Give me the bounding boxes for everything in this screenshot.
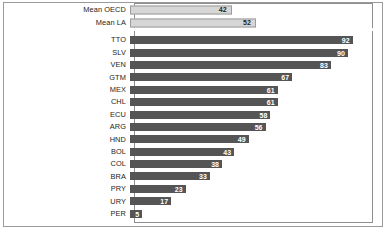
category-label: GTM <box>4 74 130 81</box>
bar-value-label: 52 <box>243 19 251 26</box>
category-label: COL <box>4 160 130 167</box>
reference-row-list: Mean OECD42Mean LA52 <box>4 3 376 30</box>
reference-label: Mean OECD <box>4 6 130 13</box>
bar-track: 33 <box>130 170 376 182</box>
chart-row: BRA33 <box>4 170 376 182</box>
bar-value-label: 61 <box>267 99 275 106</box>
category-label: PER <box>4 210 130 217</box>
category-label: BOL <box>4 148 130 155</box>
bar-value-label: 67 <box>281 74 289 81</box>
category-label: URY <box>4 198 130 205</box>
reference-means-panel: Mean OECD42Mean LA52 <box>4 3 376 30</box>
bar-value-label: 17 <box>160 198 168 205</box>
category-label: ECU <box>4 111 130 118</box>
reference-row: Mean LA52 <box>4 16 376 29</box>
bar-value-label: 33 <box>199 173 207 180</box>
value-bar: 49 <box>130 135 249 143</box>
bar-value-label: 23 <box>175 185 183 192</box>
category-label: PRY <box>4 185 130 192</box>
reference-label: Mean LA <box>4 19 130 26</box>
category-label: HND <box>4 136 130 143</box>
chart-row: CHL61 <box>4 96 376 108</box>
category-label: CHL <box>4 98 130 105</box>
bar-value-label: 90 <box>337 49 345 56</box>
reference-bar: 42 <box>130 5 232 14</box>
bar-track: 67 <box>130 71 376 83</box>
bar-value-label: 38 <box>211 161 219 168</box>
chart-row: ARG56 <box>4 121 376 133</box>
bar-value-label: 92 <box>342 37 350 44</box>
bar-track: 61 <box>130 84 376 96</box>
chart-row: PRY23 <box>4 183 376 195</box>
chart-row: SLV90 <box>4 46 376 58</box>
value-bar: 90 <box>130 49 348 57</box>
country-row-list: TTO92SLV90VEN83GTM67MEX61CHL61ECU58ARG56… <box>4 31 376 225</box>
value-bar: 92 <box>130 36 353 44</box>
reference-bar: 52 <box>130 18 256 27</box>
category-label: TTO <box>4 36 130 43</box>
bar-value-label: 43 <box>223 148 231 155</box>
chart-row: MEX61 <box>4 84 376 96</box>
chart-row: GTM67 <box>4 71 376 83</box>
bar-track: 23 <box>130 183 376 195</box>
chart-row: COL38 <box>4 158 376 170</box>
bar-track: 83 <box>130 59 376 71</box>
bar-value-label: 61 <box>267 86 275 93</box>
bar-track: 56 <box>130 121 376 133</box>
value-bar: 56 <box>130 123 266 131</box>
category-label: VEN <box>4 61 130 68</box>
chart-row: PER5 <box>4 207 376 219</box>
chart-row: TTO92 <box>4 34 376 46</box>
bar-track: 52 <box>130 16 376 29</box>
value-bar: 17 <box>130 197 171 205</box>
bar-track: 58 <box>130 108 376 120</box>
chart-figure: Mean OECD42Mean LA52 TTO92SLV90VEN83GTM6… <box>0 0 387 230</box>
category-label: ARG <box>4 123 130 130</box>
chart-row: HND49 <box>4 133 376 145</box>
value-bar: 61 <box>130 98 278 106</box>
value-bar: 33 <box>130 172 210 180</box>
bar-track: 49 <box>130 133 376 145</box>
country-bars-panel: TTO92SLV90VEN83GTM67MEX61CHL61ECU58ARG56… <box>4 31 376 225</box>
value-bar: 67 <box>130 73 292 81</box>
bar-value-label: 83 <box>320 61 328 68</box>
chart-row: BOL43 <box>4 146 376 158</box>
bar-value-label: 49 <box>238 136 246 143</box>
chart-row: URY17 <box>4 195 376 207</box>
value-bar: 83 <box>130 61 331 69</box>
category-label: BRA <box>4 173 130 180</box>
bar-track: 17 <box>130 195 376 207</box>
value-bar: 23 <box>130 185 186 193</box>
bar-track: 90 <box>130 46 376 58</box>
bar-track: 42 <box>130 3 376 16</box>
value-bar: 61 <box>130 86 278 94</box>
value-bar: 58 <box>130 111 270 119</box>
bar-track: 61 <box>130 96 376 108</box>
value-bar: 5 <box>130 210 142 218</box>
value-bar: 38 <box>130 160 222 168</box>
bar-value-label: 5 <box>135 210 139 217</box>
chart-row: VEN83 <box>4 59 376 71</box>
category-label: MEX <box>4 86 130 93</box>
bar-track: 92 <box>130 34 376 46</box>
bar-track: 43 <box>130 146 376 158</box>
chart-row: ECU58 <box>4 108 376 120</box>
reference-row: Mean OECD42 <box>4 3 376 16</box>
category-label: SLV <box>4 49 130 56</box>
bar-value-label: 56 <box>255 123 263 130</box>
value-bar: 43 <box>130 148 234 156</box>
bar-value-label: 42 <box>219 6 227 13</box>
bar-track: 5 <box>130 207 376 219</box>
bar-value-label: 58 <box>260 111 268 118</box>
bar-track: 38 <box>130 158 376 170</box>
